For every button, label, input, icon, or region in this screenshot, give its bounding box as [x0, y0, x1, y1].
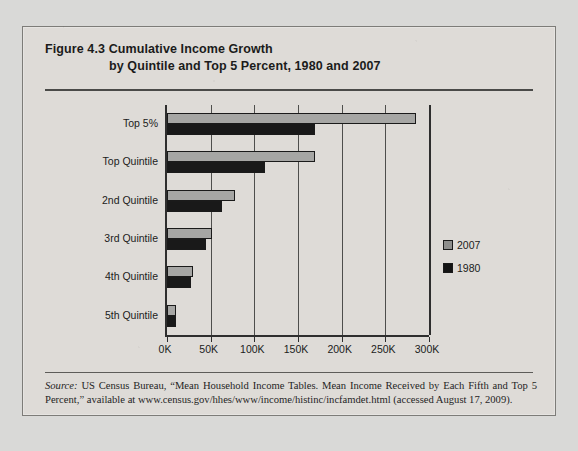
bar-group	[167, 220, 429, 258]
gridline	[429, 105, 431, 335]
bar-group	[167, 297, 429, 335]
source-body: US Census Bureau, “Mean Household Income…	[45, 380, 537, 405]
bar-1980-4th-quintile	[167, 277, 191, 288]
source-note: Source: US Census Bureau, “Mean Househol…	[45, 379, 537, 406]
y-tick-label: 2nd Quintile	[102, 194, 158, 206]
x-tick-label: 150K	[284, 343, 309, 355]
x-tick-label: 250K	[371, 343, 396, 355]
x-axis-tick	[342, 337, 343, 342]
x-tick-label: 0K	[159, 343, 172, 355]
bar-group	[167, 143, 429, 181]
bar-2007-top-quintile	[167, 151, 315, 162]
legend-swatch-1980	[443, 263, 453, 273]
legend-item-2007: 2007	[443, 239, 480, 251]
y-tick-label: 3rd Quintile	[104, 232, 158, 244]
x-axis-tick	[385, 337, 386, 342]
bar-group	[167, 105, 429, 143]
y-tick-label: 4th Quintile	[105, 270, 158, 282]
bar-1980-top-5	[167, 124, 315, 135]
x-axis-tick	[254, 337, 255, 342]
x-axis-tick	[211, 337, 212, 342]
x-axis-tick	[298, 337, 299, 342]
legend-label-2007: 2007	[457, 239, 480, 251]
legend-swatch-2007	[443, 240, 453, 250]
bar-2007-2nd-quintile	[167, 190, 235, 201]
chart-area: Top 5%Top Quintile2nd Quintile3rd Quinti…	[23, 27, 555, 415]
y-tick-label: 5th Quintile	[105, 309, 158, 321]
legend-item-1980: 1980	[443, 262, 480, 274]
bar-2007-4th-quintile	[167, 266, 193, 277]
x-tick-label: 50K	[199, 343, 218, 355]
y-axis-labels: Top 5%Top Quintile2nd Quintile3rd Quinti…	[23, 105, 158, 335]
legend-label-1980: 1980	[457, 262, 480, 274]
bar-2007-5th-quintile	[167, 305, 176, 316]
bar-1980-5th-quintile	[167, 316, 176, 327]
x-axis-tick	[429, 337, 430, 342]
plot-region	[165, 105, 429, 337]
x-tick-label: 200K	[327, 343, 352, 355]
bar-2007-top-5	[167, 113, 416, 124]
bar-group	[167, 182, 429, 220]
bar-1980-top-quintile	[167, 162, 265, 173]
bar-group	[167, 258, 429, 296]
source-label: Source:	[45, 380, 78, 391]
chart-legend: 20071980	[443, 239, 480, 285]
x-tick-label: 100K	[240, 343, 265, 355]
bar-1980-2nd-quintile	[167, 201, 222, 212]
source-divider	[45, 372, 533, 373]
figure-container: Figure 4.3 Cumulative Income Growth by Q…	[22, 26, 556, 416]
bar-2007-3rd-quintile	[167, 228, 212, 239]
x-axis-tick	[167, 337, 168, 342]
x-tick-label: 300K	[415, 343, 440, 355]
y-tick-label: Top 5%	[123, 117, 158, 129]
y-tick-label: Top Quintile	[103, 155, 158, 167]
bar-1980-3rd-quintile	[167, 239, 206, 250]
